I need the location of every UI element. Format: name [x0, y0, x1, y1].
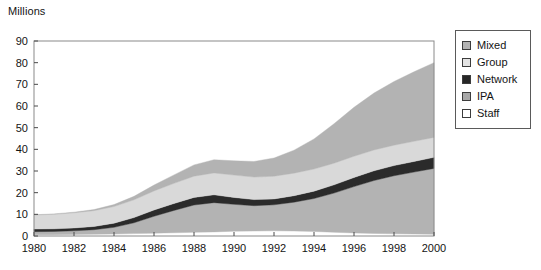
x-tick-label: 1990	[222, 242, 246, 254]
legend-label-ipa: IPA	[477, 91, 494, 102]
x-tick-label: 1998	[382, 242, 406, 254]
legend-item-staff[interactable]: Staff	[462, 105, 525, 122]
legend-swatch-network	[462, 75, 471, 84]
y-tick-label: 0	[22, 230, 28, 242]
legend-swatch-ipa	[462, 92, 471, 101]
y-tick-label: 30	[16, 165, 28, 177]
y-tick-label: 60	[16, 100, 28, 112]
x-tick-label: 1984	[102, 242, 126, 254]
legend-item-network[interactable]: Network	[462, 71, 525, 88]
y-tick-label: 70	[16, 78, 28, 90]
x-tick-label: 1982	[62, 242, 86, 254]
legend-label-group: Group	[477, 57, 508, 68]
legend-swatch-group	[462, 58, 471, 67]
legend-swatch-staff	[462, 109, 471, 118]
chart-legend: Mixed Group Network IPA Staff	[455, 30, 531, 129]
x-tick-label: 1996	[342, 242, 366, 254]
legend-item-mixed[interactable]: Mixed	[462, 37, 525, 54]
x-tick-label: 1980	[22, 242, 46, 254]
y-tick-label: 10	[16, 208, 28, 220]
y-tick-label: 80	[16, 57, 28, 69]
legend-label-network: Network	[477, 74, 517, 85]
y-tick-label: 50	[16, 122, 28, 134]
x-tick-label: 1986	[142, 242, 166, 254]
x-tick-label: 1988	[182, 242, 206, 254]
chart-figure: Millions 0102030405060708090198019821984…	[0, 0, 541, 270]
legend-item-group[interactable]: Group	[462, 54, 525, 71]
y-tick-label: 20	[16, 187, 28, 199]
legend-item-ipa[interactable]: IPA	[462, 88, 525, 105]
x-tick-label: 1994	[302, 242, 326, 254]
y-tick-label: 40	[16, 143, 28, 155]
x-tick-label: 1992	[262, 242, 286, 254]
x-tick-label: 2000	[422, 242, 446, 254]
legend-label-staff: Staff	[477, 108, 499, 119]
legend-label-mixed: Mixed	[477, 40, 506, 51]
y-tick-label: 90	[16, 35, 28, 47]
legend-swatch-mixed	[462, 41, 471, 50]
